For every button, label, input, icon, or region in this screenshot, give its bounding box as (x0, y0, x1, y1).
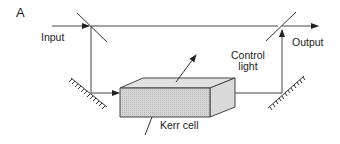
input-beamsplitter-icon (77, 13, 107, 42)
input-label: Input (41, 32, 64, 43)
kerr-cell-leader-line (145, 117, 152, 135)
kerr-cell-label: Kerr cell (160, 120, 199, 131)
control-label-line2: light (231, 61, 265, 72)
kerr-cell-icon (120, 78, 235, 117)
control-light-label: Control light (231, 50, 265, 72)
panel-label: A (16, 7, 25, 18)
kerr-cell-front-face (120, 88, 210, 117)
mach-zehnder-kerr-diagram: A Input Output Control light Kerr cell (0, 0, 340, 144)
output-label: Output (292, 37, 324, 48)
